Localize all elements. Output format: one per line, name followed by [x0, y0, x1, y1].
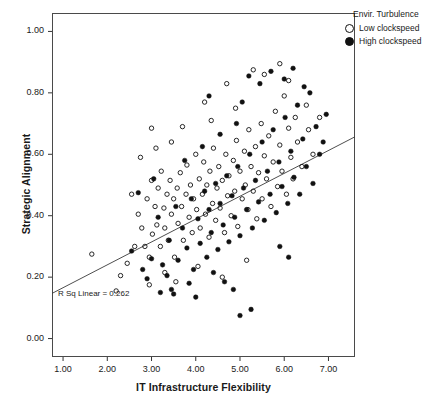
- x-tick-label: 1.00: [43, 364, 83, 374]
- legend-item-low-clockspeed: Low clockspeed: [345, 23, 441, 33]
- legend-item-high-clockspeed: High clockspeed: [345, 36, 441, 46]
- y-axis-title: Strategic Alignment: [20, 74, 32, 294]
- x-axis-title: IT Infrastructure Flexibility: [52, 381, 355, 393]
- x-tick-label: 4.00: [176, 364, 216, 374]
- filled-circle-icon: [345, 37, 354, 46]
- plot-area-frame: [52, 13, 355, 357]
- legend: Envir. Turbulence Low clockspeed High cl…: [345, 9, 441, 49]
- x-tick-label: 5.00: [220, 364, 260, 374]
- open-circle-icon: [345, 24, 354, 33]
- x-tick-label: 3.00: [132, 364, 172, 374]
- r-squared-annotation: R Sq Linear = 0.262: [58, 289, 129, 298]
- x-tick-label: 2.00: [87, 364, 127, 374]
- scatter-plot-figure: 1.002.003.004.005.006.007.00 0.000.200.4…: [0, 0, 441, 406]
- y-tick-label: 0.00: [10, 333, 44, 343]
- legend-label-low-clockspeed: Low clockspeed: [359, 23, 419, 33]
- legend-title: Envir. Turbulence: [353, 9, 441, 19]
- x-tick-label: 6.00: [264, 364, 304, 374]
- y-tick-label: 1.00: [10, 25, 44, 35]
- legend-label-high-clockspeed: High clockspeed: [359, 36, 421, 46]
- x-tick-label: 7.00: [308, 364, 348, 374]
